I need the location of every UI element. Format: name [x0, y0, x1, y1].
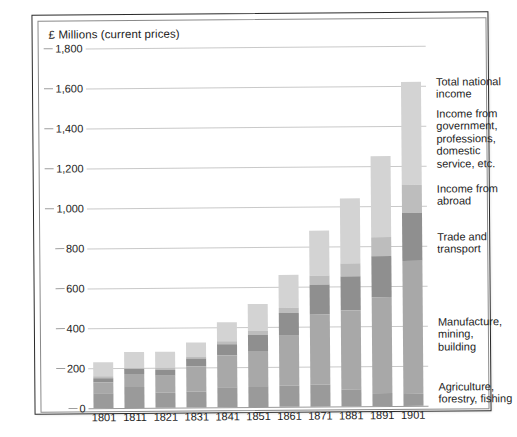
- bar-segment: [340, 277, 360, 311]
- legend-item: Income from government, professions, dom…: [436, 107, 517, 170]
- bar-segment: [403, 394, 423, 406]
- bar-segment: [186, 367, 206, 392]
- y-axis-tick-label: 1,400: [56, 122, 84, 134]
- bar-segment: [248, 351, 268, 387]
- bar-segment: [248, 387, 268, 407]
- bar-segment: [371, 256, 391, 297]
- bar-segment: [309, 285, 329, 315]
- bar-segment: [186, 342, 206, 356]
- bar-1851: [248, 304, 269, 407]
- bar-segment: [156, 393, 176, 408]
- bar-1841: [217, 322, 238, 407]
- bar-segment: [217, 344, 237, 355]
- x-axis-tick-label: 1901: [393, 409, 433, 421]
- y-axis-tick-mark: [55, 248, 64, 249]
- bar-segment: [402, 213, 422, 261]
- bar-1861: [278, 275, 299, 407]
- bar-segment: [248, 304, 268, 331]
- bar-segment: [371, 237, 391, 256]
- bar-segment: [340, 311, 361, 390]
- bar-1881: [340, 198, 362, 406]
- bar-segment: [155, 352, 175, 368]
- bar-segment: [340, 264, 360, 277]
- bar-segment: [186, 359, 206, 367]
- y-axis-tick-mark: [55, 288, 64, 289]
- y-axis-tick-label: 1,600: [55, 82, 83, 94]
- y-axis-tick-mark: [44, 48, 53, 49]
- legend: Total national incomeIncome from governm…: [436, 45, 517, 408]
- y-axis-tick-mark: [45, 208, 54, 209]
- y-axis-tick-mark: [68, 408, 77, 409]
- bar-segment: [340, 198, 361, 264]
- y-axis-tick-label: 800: [66, 242, 84, 254]
- y-axis-tick-label: 200: [67, 362, 85, 374]
- bar-segment: [370, 156, 391, 237]
- bar-1901: [400, 82, 423, 406]
- bar-1831: [186, 342, 207, 407]
- bar-1801: [94, 362, 114, 408]
- y-axis-tick-mark: [56, 368, 65, 369]
- bar-segment: [309, 275, 329, 285]
- bar-segment: [309, 230, 329, 275]
- bar-1821: [155, 352, 175, 408]
- y-axis-tick-label: 1,000: [56, 202, 84, 214]
- y-axis-tick-mark: [45, 128, 54, 129]
- bar-segment: [156, 376, 176, 393]
- y-axis-tick-label: 600: [66, 282, 84, 294]
- bar-segment: [217, 387, 237, 407]
- bar-segment: [310, 384, 330, 406]
- bar-segment: [187, 392, 207, 408]
- legend-item: Manufacture, mining, building: [438, 315, 517, 353]
- bar-segment: [401, 185, 421, 213]
- bar-segment: [94, 382, 114, 393]
- bar-1891: [370, 156, 392, 406]
- y-axis-tick-label: 1,800: [55, 42, 83, 54]
- bar-segment: [217, 322, 237, 341]
- legend-item: Total national income: [436, 75, 517, 101]
- bar-segment: [279, 336, 299, 387]
- y-axis-tick-label: 400: [66, 322, 84, 334]
- bar-segment: [279, 313, 299, 336]
- bar-segment: [248, 335, 268, 351]
- bar-segment: [279, 386, 299, 407]
- y-axis-tick-mark: [44, 88, 53, 89]
- plot-area: 02004006008001,0001,2001,4001,6001,800 1…: [86, 46, 429, 409]
- bar-segment: [402, 261, 423, 394]
- bar-segment: [341, 390, 361, 407]
- bar-segment: [124, 352, 144, 368]
- y-axis-tick-mark: [45, 168, 54, 169]
- legend-item: Trade and transport: [437, 230, 517, 256]
- y-axis-tick-label: 1,200: [56, 162, 84, 174]
- bar-segment: [372, 393, 392, 407]
- bar-segment: [94, 393, 114, 408]
- bars-group: [86, 46, 429, 409]
- bar-1871: [309, 230, 330, 406]
- bar-segment: [310, 315, 331, 385]
- bar-segment: [125, 374, 145, 387]
- legend-item: Agriculture, forestry, fishing: [438, 380, 517, 406]
- chart-canvas: £ Millions (current prices) 020040060080…: [37, 17, 487, 410]
- bar-segment: [125, 387, 145, 409]
- bar-segment: [400, 82, 421, 186]
- bar-segment: [371, 297, 392, 393]
- y-axis-title: £ Millions (current prices): [49, 28, 180, 41]
- bar-1811: [124, 352, 144, 408]
- bar-segment: [94, 362, 114, 376]
- bar-segment: [278, 275, 298, 308]
- y-axis-tick-mark: [56, 328, 65, 329]
- bar-segment: [217, 355, 237, 387]
- legend-item: Income from abroad: [437, 182, 517, 208]
